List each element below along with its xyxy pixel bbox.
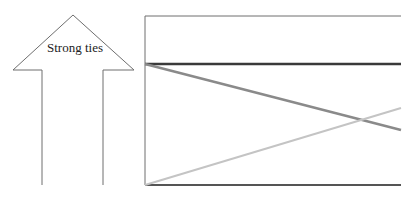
light-gray-ascending-line <box>145 108 401 185</box>
tie-strength-frame <box>145 16 401 185</box>
diagram-canvas <box>0 0 411 198</box>
arrow-label: Strong ties <box>40 40 110 56</box>
